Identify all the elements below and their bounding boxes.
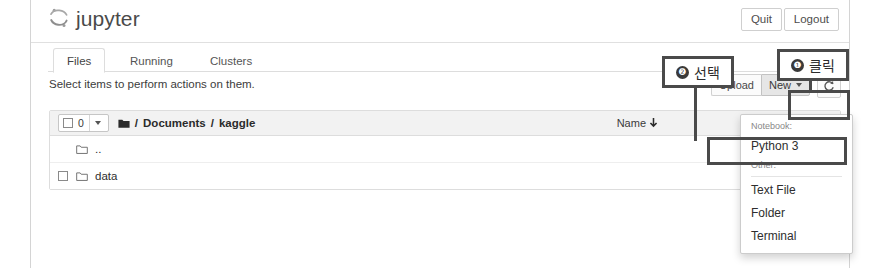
jupyter-logo[interactable]: jupyter: [48, 6, 140, 32]
annotation-label-2: 선택: [694, 62, 721, 82]
terminal-menu-item[interactable]: Terminal: [741, 225, 852, 248]
jupyter-dashboard-page: jupyter Quit Logout Files Running Cluste…: [30, 0, 850, 268]
select-all-dropdown[interactable]: [89, 115, 106, 131]
refresh-icon: [823, 80, 835, 92]
annotation-connector-2: [694, 88, 697, 141]
sort-by-name-control[interactable]: Name: [617, 117, 658, 129]
table-row[interactable]: data: [50, 163, 840, 189]
annotation-connector-1: [809, 81, 812, 93]
annotation-number-1: ❶: [791, 59, 804, 72]
arrow-down-icon: [649, 118, 658, 128]
folder-icon: [76, 144, 95, 155]
annotation-callout-1: ❶ 클릭: [777, 49, 849, 81]
annotation-label-1: 클릭: [809, 55, 836, 75]
file-name[interactable]: data: [95, 170, 117, 182]
select-all-checkbox[interactable]: [63, 118, 73, 128]
file-list-header-row: 0 / Documents / kaggle Name L: [50, 111, 840, 136]
jupyter-logo-text: jupyter: [76, 6, 140, 32]
folder-icon: [76, 171, 95, 182]
new-dropdown-menu: Notebook: Python 3 Other: Text File Fold…: [740, 114, 853, 254]
logout-button[interactable]: Logout: [784, 8, 839, 31]
breadcrumb-item-documents[interactable]: Documents: [143, 117, 206, 129]
quit-button[interactable]: Quit: [741, 8, 782, 31]
breadcrumb: / Documents / kaggle: [118, 117, 255, 129]
row-checkbox-slot[interactable]: [58, 171, 76, 181]
annotation-callout-2: ❷ 선택: [662, 56, 734, 88]
instruction-text: Select items to perform actions on them.: [49, 78, 255, 90]
jupyter-orbit-icon: [48, 6, 70, 32]
folder-menu-item[interactable]: Folder: [741, 202, 852, 225]
tab-running[interactable]: Running: [116, 48, 187, 73]
select-all-control[interactable]: 0: [58, 114, 109, 132]
breadcrumb-item-kaggle[interactable]: kaggle: [219, 117, 255, 129]
tab-files[interactable]: Files: [53, 48, 105, 73]
file-list: 0 / Documents / kaggle Name L: [49, 110, 841, 190]
caret-down-icon: [95, 121, 101, 125]
header-bar: jupyter Quit Logout: [31, 0, 849, 43]
row-checkbox[interactable]: [58, 171, 68, 181]
caret-down-icon: [796, 83, 802, 87]
menu-divider: [751, 176, 842, 177]
python-3-menu-item[interactable]: Python 3: [741, 135, 852, 158]
selected-count: 0: [78, 117, 84, 129]
table-row[interactable]: ..: [50, 136, 840, 163]
annotation-number-2: ❷: [676, 66, 689, 79]
tab-clusters[interactable]: Clusters: [196, 48, 266, 73]
menu-section-notebook: Notebook:: [741, 119, 852, 135]
breadcrumb-separator-root: /: [135, 117, 138, 129]
sort-label: Name: [617, 117, 646, 129]
folder-filled-icon[interactable]: [118, 118, 130, 129]
text-file-menu-item[interactable]: Text File: [741, 179, 852, 202]
file-name[interactable]: ..: [95, 143, 101, 155]
menu-section-other: Other:: [741, 158, 852, 174]
breadcrumb-separator-1: /: [211, 117, 214, 129]
